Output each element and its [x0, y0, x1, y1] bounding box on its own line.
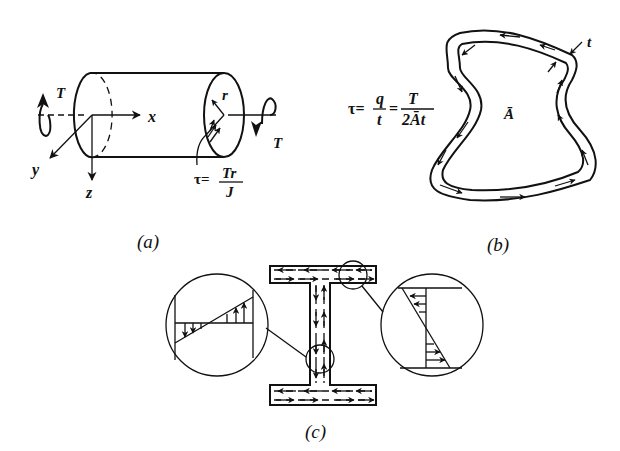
torsion-diagram-figure: T x y z r T τ= Tr J (a) [0, 0, 620, 451]
label-thickness: t [587, 34, 592, 50]
caption-b: (b) [487, 234, 509, 256]
formula-tau-tr-over-j: τ= Tr J [194, 165, 243, 200]
panel-a-shaft: T x y z r T τ= Tr J (a) [30, 73, 283, 253]
thickness-arrow-icon [570, 42, 582, 54]
formula-b-frac2-num: T [408, 90, 419, 107]
formula-lhs: τ= [194, 171, 209, 187]
formula-b-lhs: τ= [348, 100, 365, 117]
shear-flow-arrows-i-section [276, 270, 374, 400]
caption-c: (c) [305, 421, 326, 443]
formula-denominator: J [225, 184, 234, 200]
caption-a: (a) [137, 231, 159, 253]
panel-c-i-section: (c) [166, 261, 483, 443]
label-torque-left: T [56, 85, 66, 101]
coordinate-axes [38, 115, 140, 180]
label-axis-y: y [30, 161, 40, 179]
formula-b-frac1-den: t [377, 111, 382, 128]
centerline-dashes [274, 270, 372, 400]
magnified-detail-web [166, 274, 268, 376]
torque-arrow-right-icon [228, 98, 276, 137]
formula-b-frac2-den: 2Āt [401, 110, 426, 128]
label-radius: r [222, 87, 228, 103]
formula-b-frac1-num: q [376, 90, 384, 108]
label-axis-z: z [85, 184, 93, 201]
panel-b-closed-section: t Ā τ= q t = T 2Āt (b) [348, 30, 596, 256]
formula-numerator: Tr [222, 165, 237, 181]
label-axis-x: x [147, 108, 156, 125]
formula-b-eq: = [389, 100, 398, 117]
formula-shear-flow: τ= q t = T 2Āt [348, 90, 434, 128]
label-torque-right: T [273, 135, 283, 151]
magnified-detail-flange [381, 274, 483, 376]
label-enclosed-area: Ā [503, 106, 514, 122]
